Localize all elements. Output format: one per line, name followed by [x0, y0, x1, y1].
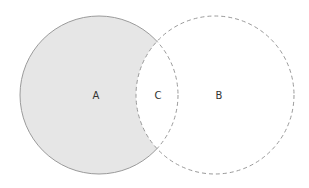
- label-c: C: [155, 90, 162, 101]
- label-a: A: [93, 90, 100, 101]
- label-b: B: [216, 90, 223, 101]
- venn-diagram: A C B: [0, 0, 309, 188]
